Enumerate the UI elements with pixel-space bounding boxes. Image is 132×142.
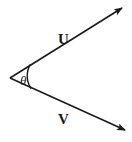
vector-u-label: U <box>58 31 69 47</box>
vector-v-label: V <box>58 111 69 127</box>
vector-angle-figure: U V θ <box>0 0 132 142</box>
angle-arc <box>27 64 31 88</box>
theta-angle-label: θ <box>20 73 27 88</box>
vector-angle-diagram: U V θ <box>0 0 132 142</box>
